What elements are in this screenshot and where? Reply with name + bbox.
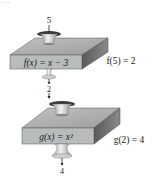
machine-f: 5 f(x) = x − 3 f(5) = 2 2	[10, 15, 136, 94]
arrow-head-icon	[48, 96, 51, 99]
input-value-f: 5	[47, 15, 52, 25]
function-machine-diagram: 5 f(x) = x − 3 f(5) = 2 2	[0, 0, 160, 180]
machine-g: g(x) = x² g(2) = 4 4	[22, 93, 145, 176]
output-value-f: 2	[47, 85, 51, 94]
rule-label-g: g(x) = x²	[39, 132, 73, 143]
output-value-g: 4	[60, 167, 64, 176]
result-label-g: g(2) = 4	[114, 135, 145, 146]
rule-label-f: f(x) = x − 3	[24, 58, 69, 69]
result-label-f: f(5) = 2	[106, 56, 135, 67]
arrow-head-icon	[61, 163, 64, 166]
